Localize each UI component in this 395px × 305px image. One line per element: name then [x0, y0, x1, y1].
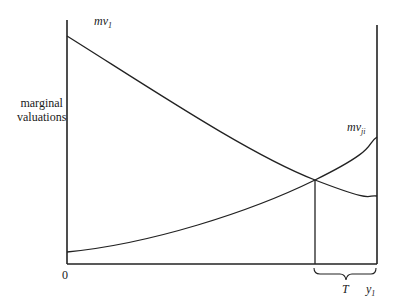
- diagram-canvas: [0, 0, 395, 305]
- label-mvji-main: mv: [347, 120, 361, 134]
- label-T: T: [342, 282, 349, 296]
- label-y1-sub: 1: [371, 289, 375, 298]
- label-mv1-sub: 1: [108, 21, 112, 30]
- label-y1: y1: [366, 282, 375, 301]
- label-mv1-main: mv: [94, 14, 108, 28]
- origin-label: 0: [62, 268, 68, 282]
- curve-mvji: [67, 137, 377, 252]
- y-axis-label-line1: marginal: [17, 96, 66, 110]
- brace-T: [314, 268, 376, 280]
- y-axis-label: marginal valuations: [17, 96, 66, 124]
- label-mv1: mv1: [94, 14, 112, 33]
- label-mvji-sub: ji: [361, 127, 365, 136]
- y-axis-label-line2: valuations: [17, 110, 66, 124]
- label-mvji: mvji: [347, 120, 365, 139]
